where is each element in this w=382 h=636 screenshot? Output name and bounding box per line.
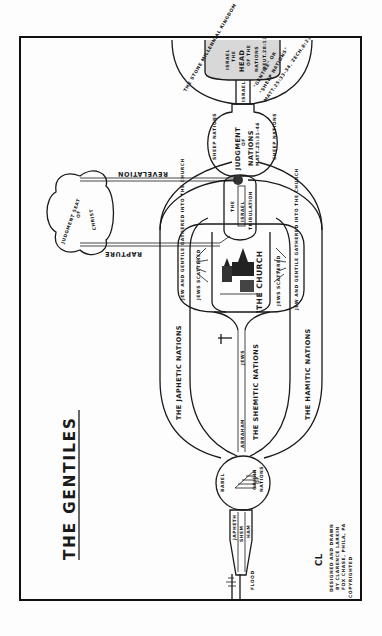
credits-monogram: CL bbox=[314, 553, 324, 566]
israel-line5: NATIONS bbox=[254, 46, 259, 72]
judgment-right: SHEEP NATIONS bbox=[272, 113, 277, 160]
judgment-line2: OF bbox=[241, 138, 246, 146]
tribulation-line1: THE bbox=[230, 201, 235, 212]
israel-line3: HEAD bbox=[238, 50, 246, 72]
abraham-label: ABRAHAM bbox=[240, 419, 245, 448]
title-group: THE GENTILES bbox=[61, 410, 79, 560]
seat-line3: CHRIST bbox=[88, 208, 97, 230]
left-gathered: JEW AND GENTILE GATHERED INTO THE CHURCH bbox=[180, 158, 185, 301]
judgment-left: SHEEP NATIONS bbox=[212, 113, 217, 160]
tribulation-capsule: THE ISRAEL TRIBULATION bbox=[224, 175, 256, 240]
judgment-line1: JUDGMENT bbox=[234, 127, 242, 171]
jews-label: JEWS bbox=[240, 350, 245, 366]
origin-label-3: NATIONS bbox=[259, 466, 264, 492]
right-scattered: JEWS SCATTERED bbox=[276, 255, 281, 307]
japhetic-label: THE JAPHETIC NATIONS bbox=[175, 325, 183, 420]
son-japheth: JAPHETH bbox=[232, 514, 237, 541]
shemitic-label: THE SHEMITIC NATIONS bbox=[252, 344, 260, 440]
credits: CL DESIGNED AND DRAWN BY CLARENCE LARKIN… bbox=[314, 523, 353, 598]
credits-line2: BY CLARENCE LARKIN bbox=[335, 526, 340, 590]
israel-line2: THE bbox=[231, 51, 236, 62]
judgment-ref: MATT.25:31-46 bbox=[255, 122, 260, 166]
millennial-kingdom: THE STONE MILLENNIAL KINGDOM ISRAEL THE … bbox=[172, 3, 313, 104]
church-label: THE CHURCH bbox=[255, 250, 264, 310]
credits-line1: DESIGNED AND DRAWN bbox=[329, 524, 334, 592]
left-scattered: JEWS SCATTERED bbox=[196, 249, 201, 301]
rapture-connector: RAPTURE bbox=[80, 236, 230, 258]
seat-line2: OF bbox=[76, 210, 81, 218]
credits-line3: FOX CHASE, PHILA, PA bbox=[341, 523, 346, 590]
revelation-label: REVELATION bbox=[118, 170, 168, 178]
judgment-line3: NATIONS bbox=[247, 130, 255, 166]
israel-line1: ISRAEL bbox=[225, 49, 230, 70]
neck-label: ISRAEL bbox=[241, 81, 246, 102]
right-gathered: JEW AND GENTILE GATHERED INTO THE CHURCH bbox=[294, 168, 299, 311]
son-ham: HAM bbox=[246, 525, 251, 538]
diagram-title: THE GENTILES bbox=[61, 416, 79, 560]
origin-of-nations: BABEL ORIGIN OF NATIONS bbox=[216, 456, 270, 510]
judgment-seat-cloud: JUDGMENT SEAT OF CHRIST bbox=[47, 171, 114, 254]
tribulation-line3: TRIBULATION bbox=[248, 191, 253, 230]
tribulation-line2: ISRAEL bbox=[240, 201, 245, 222]
flood-label: FLOOD bbox=[250, 570, 255, 590]
israel-line4: OF THE bbox=[246, 45, 251, 66]
son-shem: SHEM bbox=[239, 525, 244, 542]
rapture-label: RAPTURE bbox=[105, 250, 142, 258]
babel-label: BABEL bbox=[220, 473, 225, 492]
flood-group: FLOOD JAPHETH SHEM HAM bbox=[226, 510, 255, 600]
judgment-of-nations: JUDGMENT OF NATIONS MATT.25:31-46 SHEEP … bbox=[208, 104, 278, 185]
credits-line4: COPYRIGHTED bbox=[348, 556, 353, 598]
cross-icon bbox=[218, 334, 232, 344]
gentiles-diagram: THE GENTILES FLOOD JAPHETH SHEM HAM BABE… bbox=[0, 0, 382, 636]
seat-line1: JUDGMENT SEAT bbox=[60, 197, 82, 245]
hamitic-label: THE HAMITIC NATIONS bbox=[304, 328, 312, 420]
